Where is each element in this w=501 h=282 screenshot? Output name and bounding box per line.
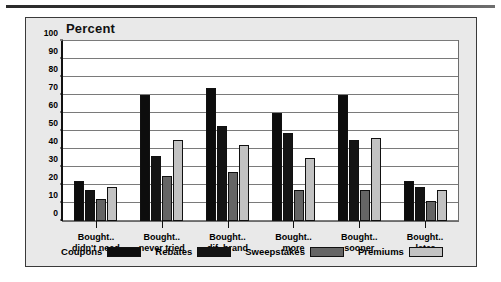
chart-panel: Percent 0102030405060708090100 Bought..d… [25,17,477,267]
bar[interactable] [338,95,348,221]
y-axis-tick-label: 100 [44,28,58,37]
top-divider-rule [6,5,495,8]
x-axis-label-line: Bought.. [129,232,195,243]
y-axis-tick-label: 50 [49,118,58,127]
bar[interactable] [349,140,359,221]
y-axis-tick-label: 70 [49,82,58,91]
y-axis-tick-label: 0 [53,208,58,217]
bar[interactable] [437,190,447,221]
legend-item[interactable]: Coupons [61,246,141,257]
y-axis-tick-label: 60 [49,100,58,109]
bar[interactable] [272,113,282,221]
plot-area: 0102030405060708090100 Bought..didn't ne… [62,40,459,222]
bar-group [392,41,458,221]
legend-item-label: Coupons [61,246,102,257]
bar[interactable] [239,145,249,221]
y-axis-tick-label: 90 [49,46,58,55]
bar-group [195,41,261,221]
page-title: Percent [66,21,115,36]
chart-page: Percent 0102030405060708090100 Bought..d… [0,0,501,282]
chart-legend: CouponsRebatesSweepstakesPremiums [26,246,478,257]
bar[interactable] [107,187,117,221]
bar[interactable] [96,199,106,221]
bar-group [129,41,195,221]
x-axis-tick-mark [359,221,360,228]
x-axis-tick-mark [96,221,97,228]
bar[interactable] [74,181,84,221]
legend-color-swatch [409,247,443,257]
bar[interactable] [173,140,183,221]
bar[interactable] [85,190,95,221]
y-axis-tick-label: 10 [49,190,58,199]
bar[interactable] [404,181,414,221]
bar[interactable] [415,187,425,221]
x-axis-label-line: Bought.. [326,232,392,243]
bar-group [260,41,326,221]
bar[interactable] [162,176,172,221]
legend-item[interactable]: Sweepstakes [245,246,344,257]
y-axis-tick-label: 20 [49,172,58,181]
legend-item[interactable]: Rebates [155,246,231,257]
bar[interactable] [151,156,161,221]
x-axis-label-line: Bought.. [195,232,261,243]
legend-item-label: Sweepstakes [245,246,305,257]
bar[interactable] [206,88,216,221]
bar[interactable] [217,126,227,221]
bar-groups [63,41,458,221]
bar[interactable] [360,190,370,221]
y-axis-tick-label: 80 [49,64,58,73]
bar[interactable] [140,95,150,221]
plot-area-wrapper: 0102030405060708090100 Bought..didn't ne… [62,40,459,222]
x-axis-tick-mark [293,221,294,228]
x-axis-label-line: Bought.. [260,232,326,243]
legend-item-label: Rebates [155,246,192,257]
legend-color-swatch [310,247,344,257]
legend-color-swatch [107,247,141,257]
legend-color-swatch [197,247,231,257]
bar[interactable] [228,172,238,221]
bar[interactable] [305,158,315,221]
bar[interactable] [426,201,436,221]
x-axis-label-line: Bought.. [63,232,129,243]
x-axis-tick-mark [162,221,163,228]
bar-group [63,41,129,221]
x-axis-label-line: Bought.. [392,232,458,243]
legend-item-label: Premiums [358,246,404,257]
y-axis-tick-label: 40 [49,136,58,145]
x-axis-tick-mark [228,221,229,228]
bar[interactable] [371,138,381,221]
legend-item[interactable]: Premiums [358,246,443,257]
bar[interactable] [283,133,293,221]
x-axis-tick-mark [425,221,426,228]
bar-group [326,41,392,221]
y-axis-tick-label: 30 [49,154,58,163]
bar[interactable] [294,190,304,221]
